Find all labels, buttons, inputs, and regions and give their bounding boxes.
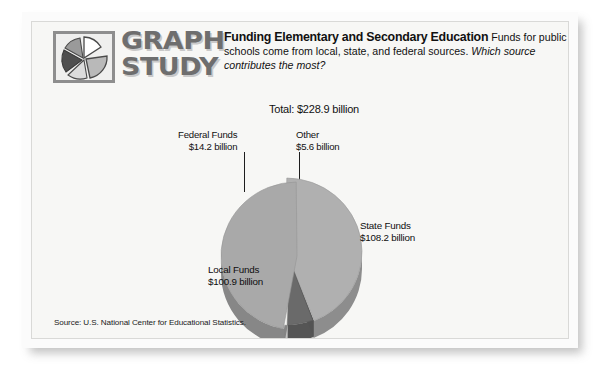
slice-label-state: State Funds $108.2 billion xyxy=(360,220,415,244)
source-note: Source: U.S. National Center for Educati… xyxy=(54,318,246,327)
graph-study-card: GRAPH STUDY Funding Elementary and Secon… xyxy=(22,12,578,348)
callout-federal-name: Federal Funds xyxy=(178,129,237,141)
callout-other-amount: $5.6 billion xyxy=(296,141,339,153)
callout-other: Other $5.6 billion xyxy=(296,129,339,152)
card-inner-frame: GRAPH STUDY Funding Elementary and Secon… xyxy=(31,21,569,339)
callout-other-name: Other xyxy=(296,129,339,141)
header-text-block: Funding Elementary and Secondary Educati… xyxy=(224,30,569,73)
slice-label-local-amount: $100.9 billion xyxy=(208,276,263,288)
pie-chart-logo-icon xyxy=(53,31,115,83)
logo-word-line1: GRAPH xyxy=(121,28,234,54)
logo-wordmark: GRAPH STUDY xyxy=(121,28,234,84)
slice-label-local: Local Funds $100.9 billion xyxy=(208,264,263,288)
slice-label-state-amount: $108.2 billion xyxy=(360,232,415,244)
page-title: Funding Elementary and Secondary Educati… xyxy=(224,30,488,44)
logo-word-line2: STUDY xyxy=(121,54,234,80)
pie-graphic xyxy=(144,166,434,334)
chart-total-label: Total: $228.9 billion xyxy=(46,103,582,115)
slice-label-local-name: Local Funds xyxy=(208,264,263,276)
pie-chart: Total: $228.9 billion Federal Funds $14.… xyxy=(32,84,568,308)
callout-federal-amount: $14.2 billion xyxy=(178,141,237,153)
callout-federal-funds: Federal Funds $14.2 billion xyxy=(178,129,237,152)
slice-label-state-name: State Funds xyxy=(360,220,415,232)
header: GRAPH STUDY Funding Elementary and Secon… xyxy=(32,22,568,84)
